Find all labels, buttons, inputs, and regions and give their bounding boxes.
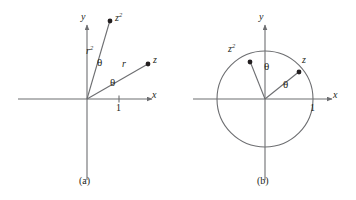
- panel-b-angle-theta-lower: θ: [283, 79, 288, 90]
- panel-b-radius-z: [265, 73, 298, 100]
- panel-a-caption: (a): [79, 176, 90, 186]
- panel-b-point-z: [297, 70, 302, 75]
- panel-b-x-axis-label: x: [333, 90, 337, 100]
- panel-a-point-z-squared: [108, 19, 113, 24]
- panel-b-radius-z-squared: [251, 63, 266, 100]
- panel-b-y-axis-label: y: [259, 12, 263, 22]
- panel-a-label-z-squared: z2: [115, 12, 122, 23]
- panel-a-x-axis-label: x: [152, 90, 156, 100]
- panel-a-y-axis-label: y: [81, 12, 85, 22]
- panel-b-point-z-squared: [248, 60, 253, 65]
- panel-b-label-z-squared: z2: [228, 43, 235, 54]
- panel-a-label-z: z: [153, 55, 157, 65]
- panel-a-label-r-squared-exponent: 2: [90, 44, 93, 51]
- panel-a-graphics: [18, 19, 152, 180]
- panel-a-point-z: [146, 62, 151, 67]
- panel-b-x-tick-label-1: 1: [310, 103, 315, 113]
- panel-b-label-z: z: [302, 55, 306, 65]
- panel-a-angle-theta-lower: θ: [110, 77, 115, 88]
- panel-a-label-z-squared-exponent: 2: [119, 11, 122, 18]
- panel-b-angle-theta-upper: θ: [264, 61, 269, 72]
- figure-vector-layer: [0, 0, 356, 200]
- panel-b-label-z-squared-exponent: 2: [232, 42, 235, 49]
- panel-a-label-r-squared: r2: [86, 45, 93, 56]
- panel-a-angle-theta-upper: θ: [97, 57, 102, 68]
- figure-container: x y 1 z z2 r r2 θ θ (a) x y 1 z z2 θ θ (…: [0, 0, 356, 200]
- panel-a-label-r: r: [122, 59, 126, 69]
- panel-a-x-tick-label-1: 1: [116, 103, 121, 113]
- panel-b-caption: (b): [257, 176, 269, 186]
